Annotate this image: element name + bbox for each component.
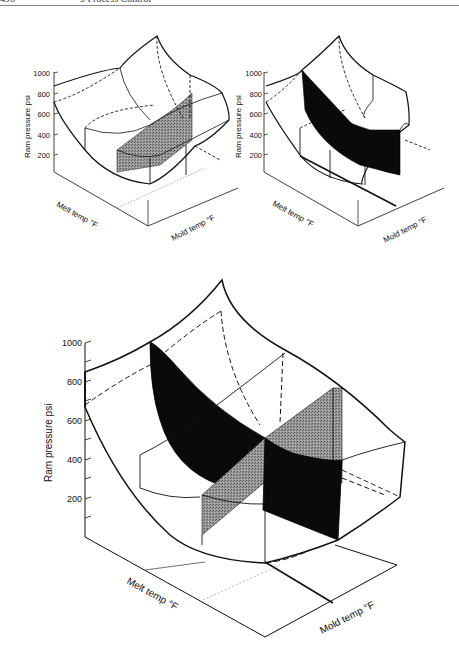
y-tick-600: 600 [67,416,82,426]
y-axis-label: Ram pressure psi [23,95,32,158]
y-tick-400: 400 [67,455,82,465]
x-axis-mold-label: Mold temp °F [318,599,376,636]
x-axis-mold-label: Mold temp °F [382,215,429,245]
y-tick-400: 400 [249,131,262,140]
x-axis-melt-label: Melt temp °F [125,575,180,612]
y-tick-400: 400 [37,131,50,140]
y-tick-800: 800 [37,90,50,99]
y-tick-200: 200 [37,151,50,160]
figure-top-right [264,36,444,226]
x-axis-melt-label: Melt temp °F [55,200,99,230]
y-axis-label: Ram pressure psi [43,404,54,482]
y-tick-1000: 1000 [245,69,262,78]
y-tick-600: 600 [249,110,262,119]
y-tick-200: 200 [249,151,262,160]
x-axis-mold-label: Mold temp °F [170,213,217,243]
figure-top-left [54,36,238,226]
y-tick-800: 800 [67,377,82,387]
y-tick-600: 600 [37,110,50,119]
y-tick-200: 200 [67,494,82,504]
y-axis-label: Ram pressure psi [234,95,243,158]
y-tick-1000: 1000 [33,69,50,78]
y-tick-800: 800 [249,90,262,99]
y-tick-1000: 1000 [62,338,82,348]
figure-canvas: 1000 800 600 400 200 Ram pressure psi Me… [0,0,459,660]
x-axis-melt-label: Melt temp °F [271,199,315,229]
